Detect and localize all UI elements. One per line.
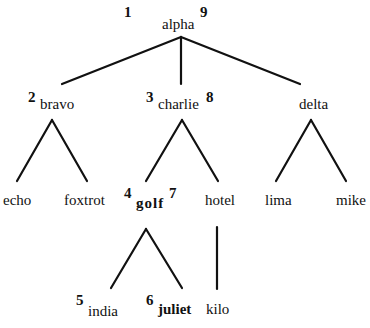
edge-alpha-delta (181, 37, 300, 84)
order-number-golf-pre: 4 (124, 186, 132, 201)
node-india: india (88, 304, 118, 319)
edge-golf-juliet (146, 229, 182, 288)
node-alpha: alpha (162, 17, 194, 32)
order-number-alpha-pre: 1 (124, 5, 132, 20)
node-foxtrot: foxtrot (64, 193, 105, 208)
edge-charlie-hotel (182, 120, 218, 181)
edge-golf-india (111, 229, 146, 288)
node-delta: delta (299, 97, 328, 112)
node-kilo: kilo (206, 302, 229, 317)
node-golf: golf (136, 196, 164, 211)
tree-edges (0, 0, 370, 328)
order-number-charlie-post: 8 (206, 90, 214, 105)
order-number-charlie-pre: 3 (146, 90, 154, 105)
order-number-alpha-post: 9 (200, 5, 208, 20)
node-bravo: bravo (40, 97, 74, 112)
order-number-golf-post: 7 (169, 186, 177, 201)
edge-bravo-echo (17, 120, 52, 181)
order-number-juliet-pre: 6 (146, 293, 154, 308)
node-juliet: juliet (158, 302, 191, 317)
order-number-bravo-pre: 2 (28, 90, 36, 105)
edge-bravo-foxtrot (52, 120, 87, 181)
node-lima: lima (265, 193, 292, 208)
edge-delta-mike (311, 120, 346, 181)
order-number-india-pre: 5 (76, 293, 84, 308)
node-charlie: charlie (158, 97, 199, 112)
node-echo: echo (3, 193, 31, 208)
edge-charlie-golf (146, 120, 182, 181)
edge-delta-lima (276, 120, 311, 181)
node-hotel: hotel (205, 193, 235, 208)
edge-alpha-bravo (62, 37, 181, 84)
node-mike: mike (336, 193, 366, 208)
